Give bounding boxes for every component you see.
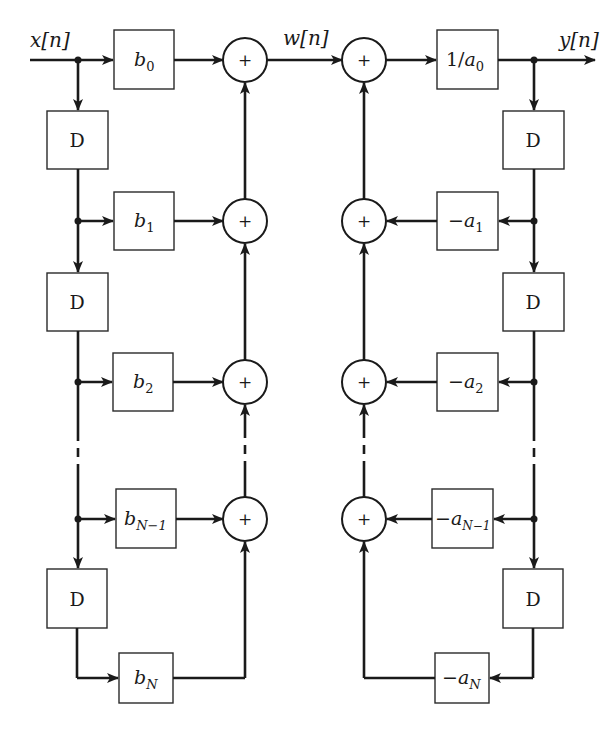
delay-label: D [69, 291, 84, 313]
delay-label: D [525, 291, 540, 313]
plus-icon: + [357, 50, 371, 70]
delay-label: D [69, 588, 84, 610]
feedforward-section [30, 30, 267, 703]
plus-icon: + [238, 50, 252, 70]
direct-form-1-diagram: x[n] w[n] y[n] + + + + + + + + D D D D D… [0, 0, 616, 749]
feedback-section [342, 30, 595, 703]
delay-label: D [69, 129, 84, 151]
delay-label: D [525, 588, 540, 610]
delay-label: D [525, 129, 540, 151]
input-signal-label: x[n] [30, 28, 70, 52]
plus-icon: + [357, 211, 371, 231]
plus-icon: + [238, 211, 252, 231]
plus-icon: + [357, 509, 371, 529]
plus-icon: + [357, 372, 371, 392]
output-signal-label: y[n] [558, 28, 599, 52]
plus-icon: + [238, 372, 252, 392]
intermediate-signal-label: w[n] [283, 26, 329, 50]
plus-icon: + [238, 509, 252, 529]
